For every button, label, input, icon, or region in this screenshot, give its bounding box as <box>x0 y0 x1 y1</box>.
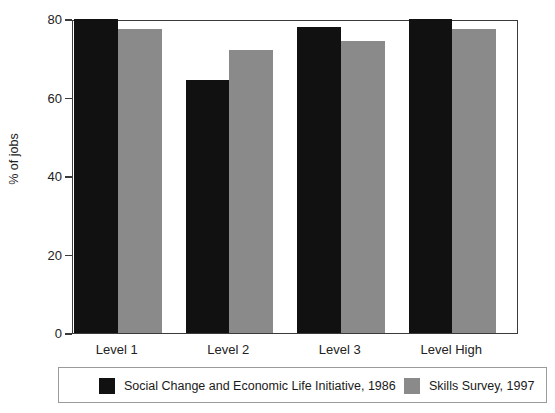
y-tick-mark <box>65 333 72 335</box>
y-tick-mark <box>65 255 72 257</box>
bar <box>186 80 230 333</box>
plot-area <box>72 20 518 334</box>
bar <box>409 19 453 333</box>
y-tick-mark <box>65 19 72 21</box>
y-axis: % of jobs 020406080 <box>0 0 72 334</box>
legend-entry: Social Change and Economic Life Initiati… <box>99 368 396 404</box>
x-axis-label: Level High <box>408 342 496 357</box>
bar <box>118 29 162 333</box>
y-tick-label: 40 <box>48 168 62 185</box>
x-axis-label: Level 1 <box>73 342 161 357</box>
bar <box>341 41 385 333</box>
chart-legend: Social Change and Economic Life Initiati… <box>58 367 547 403</box>
bar-group <box>74 21 162 333</box>
x-axis-label: Level 2 <box>185 342 273 357</box>
y-tick-label: 0 <box>55 325 62 342</box>
y-tick-mark <box>65 98 72 100</box>
y-tick-label: 60 <box>48 90 62 107</box>
legend-label: Social Change and Economic Life Initiati… <box>124 379 396 393</box>
legend-label: Skills Survey, 1997 <box>429 379 534 393</box>
bar <box>297 27 341 333</box>
x-axis: Level 1Level 2Level 3Level High <box>72 336 518 362</box>
bar-group <box>409 21 497 333</box>
x-axis-label: Level 3 <box>296 342 384 357</box>
bar-chart-figure: % of jobs 020406080 Level 1Level 2Level … <box>0 0 555 413</box>
gray-swatch <box>404 378 420 394</box>
y-axis-title: % of jobs <box>7 99 21 219</box>
bar-group <box>186 21 274 333</box>
legend-entry: Skills Survey, 1997 <box>404 368 534 404</box>
bar <box>452 29 496 333</box>
bar <box>229 50 273 333</box>
y-tick-label: 80 <box>48 11 62 28</box>
bars-layer <box>73 21 517 333</box>
y-tick-mark <box>65 176 72 178</box>
bar <box>74 19 118 333</box>
black-swatch <box>99 378 115 394</box>
bar-group <box>297 21 385 333</box>
y-tick-label: 20 <box>48 247 62 264</box>
